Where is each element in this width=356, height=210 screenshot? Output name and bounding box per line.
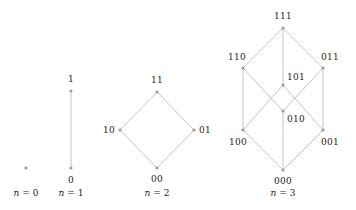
graph-node	[321, 66, 324, 69]
vertex-label: 1	[68, 75, 74, 84]
vertex-label: 00	[151, 175, 163, 184]
vertex-label: 01	[199, 126, 211, 135]
vertex-label: 10	[103, 126, 115, 135]
vertex-label: 000	[274, 177, 292, 186]
graph-edge	[283, 130, 323, 170]
hypercube-figure: n = 010n = 111100100n = 2111110101011100…	[0, 0, 356, 210]
panel-caption: n = 2	[145, 189, 170, 198]
graph-node	[118, 128, 121, 131]
vertex-label: 100	[229, 138, 247, 147]
edges-layer	[71, 28, 323, 170]
graph-edge	[243, 85, 283, 130]
graph-node	[69, 89, 72, 92]
vertex-label: 011	[321, 53, 339, 62]
graph-node	[155, 90, 158, 93]
graph-edge	[157, 130, 194, 168]
graph-edge	[120, 92, 157, 130]
graph-edge	[243, 28, 283, 68]
graph-edge	[243, 68, 283, 111]
vertex-label: 001	[321, 138, 339, 147]
panel-caption: n = 0	[14, 189, 39, 198]
vertex-label: 0	[68, 176, 74, 185]
graph-node	[24, 166, 27, 169]
graph-node	[281, 83, 284, 86]
graph-edge	[120, 130, 157, 168]
graph-edge	[157, 92, 194, 130]
graph-node	[281, 109, 284, 112]
panel-caption: n = 3	[271, 189, 296, 198]
graph-node	[241, 128, 244, 131]
graph-canvas	[0, 0, 356, 210]
panel-caption: n = 1	[59, 189, 84, 198]
graph-node	[321, 128, 324, 131]
vertex-label: 010	[287, 115, 305, 124]
graph-node	[69, 166, 72, 169]
vertex-label: 110	[228, 53, 246, 62]
graph-node	[281, 26, 284, 29]
graph-node	[155, 166, 158, 169]
graph-node	[281, 168, 284, 171]
vertex-label: 11	[151, 76, 163, 85]
graph-node	[192, 128, 195, 131]
vertex-label: 111	[274, 12, 292, 21]
vertex-label: 101	[287, 73, 305, 82]
graph-edge	[283, 28, 323, 68]
graph-edge	[243, 130, 283, 170]
graph-node	[241, 66, 244, 69]
